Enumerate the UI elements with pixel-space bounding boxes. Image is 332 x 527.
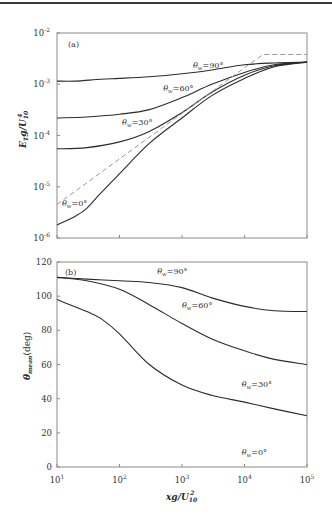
panel-b-ylabel: θmean(deg) bbox=[22, 332, 33, 380]
panel-b-ticks: 101102103104105120100806040200 bbox=[36, 257, 315, 485]
tick-label: 10-2 bbox=[33, 26, 50, 38]
panel-b-frame bbox=[57, 262, 307, 467]
curve-label: θw=0° bbox=[242, 448, 267, 458]
curve-label: θw=90° bbox=[157, 267, 187, 277]
panel-a-annotations: θw=90°θw=60°θw=30°θw=0° bbox=[62, 61, 223, 209]
figure: (a) 10-210-310-410-510-6 θw=90°θw=60°θw=… bbox=[0, 0, 332, 527]
tick-label: 20 bbox=[41, 428, 52, 438]
tick-label: 100 bbox=[36, 291, 52, 301]
tick-label: 80 bbox=[41, 325, 52, 335]
tick-label: 40 bbox=[41, 394, 52, 404]
panel-a-ticks: 10-210-310-410-510-6 bbox=[33, 26, 307, 243]
panel-a-curves bbox=[57, 55, 307, 225]
tick-label: 60 bbox=[41, 360, 52, 370]
panel-a-tag: (a) bbox=[68, 40, 79, 49]
panel-b-tag: (b) bbox=[65, 268, 76, 277]
panel-b: (b) 101102103104105120100806040200 θw=90… bbox=[22, 257, 315, 503]
tick-label: 101 bbox=[50, 473, 65, 485]
series-curve bbox=[57, 55, 307, 205]
tick-label: 120 bbox=[36, 257, 52, 267]
curve-label: θw=90° bbox=[193, 61, 223, 71]
tick-label: 104 bbox=[237, 473, 252, 485]
tick-label: 103 bbox=[175, 473, 190, 485]
panel-a: (a) 10-210-310-410-510-6 θw=90°θw=60°θw=… bbox=[16, 26, 307, 243]
curve-label: θw=60° bbox=[163, 84, 193, 94]
panel-a-ylabel: ETg/U104 bbox=[16, 110, 29, 149]
tick-label: 102 bbox=[112, 473, 127, 485]
tick-label: 10-4 bbox=[33, 129, 50, 141]
series-curve bbox=[57, 62, 307, 81]
tick-label: 0 bbox=[47, 462, 52, 472]
panel-a-frame bbox=[57, 33, 307, 238]
tick-label: 10-6 bbox=[33, 231, 50, 243]
panel-b-annotations: θw=90°θw=60°θw=30°θw=0° bbox=[157, 267, 272, 458]
series-curve bbox=[57, 62, 307, 149]
curve-label: θw=60° bbox=[182, 301, 212, 311]
curve-label: θw=30° bbox=[242, 380, 272, 390]
x-axis-label: xg/U102 bbox=[165, 489, 198, 503]
series-curve bbox=[57, 277, 307, 364]
curve-label: θw=0° bbox=[62, 199, 87, 209]
tick-label: 10-3 bbox=[33, 77, 50, 89]
panel-b-curves bbox=[57, 277, 307, 415]
tick-label: 10-5 bbox=[33, 180, 50, 192]
series-curve bbox=[57, 300, 307, 416]
tick-label: 105 bbox=[300, 473, 315, 485]
curve-label: θw=30° bbox=[122, 118, 152, 128]
